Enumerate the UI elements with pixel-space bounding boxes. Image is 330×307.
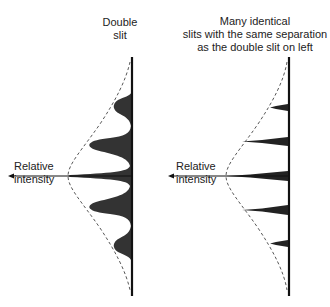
arrow-head-icon <box>8 174 14 179</box>
peak-minus2 <box>270 240 288 247</box>
double-slit-intensity-fill <box>68 92 132 262</box>
peak-plus2 <box>270 104 288 111</box>
arrow-head-icon <box>168 174 174 179</box>
double-slit-pattern <box>8 57 132 296</box>
multi-slit-pattern <box>168 57 289 296</box>
peak-minus1 <box>242 205 288 215</box>
peak-plus1 <box>242 137 288 146</box>
